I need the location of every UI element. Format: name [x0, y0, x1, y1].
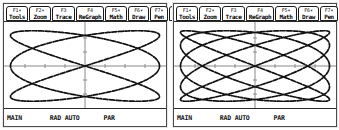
- graph-area-right[interactable]: [174, 22, 336, 108]
- chevron-down-icon: ▾: [41, 7, 44, 12]
- toolbar-button-zoom[interactable]: F2▾ Zoom: [199, 6, 221, 21]
- toolbar-label-math: Math: [110, 13, 123, 20]
- status-bar-right: MAIN RAD AUTO PAR: [174, 108, 336, 126]
- toolbar-label-draw: Draw: [132, 13, 145, 20]
- screenshot-stage: F1▾ Tools F2▾ Zoom F3 Trace F4 Re: [0, 0, 339, 130]
- chevron-down-icon: ▾: [18, 7, 21, 12]
- toolbar-button-math[interactable]: F5▾ Math: [105, 6, 127, 21]
- status-graph-mode: PAR: [104, 114, 115, 122]
- status-mode: MAIN: [177, 114, 192, 122]
- toolbar-button-tools[interactable]: F1▾ Tools: [6, 6, 28, 21]
- chevron-down-icon: ▾: [117, 7, 120, 12]
- toolbar-label-regraph: ReGraph: [79, 13, 102, 20]
- toolbar-label-zoom: Zoom: [204, 13, 217, 20]
- toolbar-label-trace: Trace: [55, 13, 71, 20]
- toolbar-label-pen: Pen: [324, 13, 334, 20]
- toolbar-left: F1▾ Tools F2▾ Zoom F3 Trace F4 Re: [4, 4, 166, 22]
- lissajous-plot-left: [4, 22, 166, 108]
- status-mode: MAIN: [7, 114, 22, 122]
- toolbar-button-zoom[interactable]: F2▾ Zoom: [29, 6, 51, 21]
- calculator-screen-right: F1▾ Tools F2▾ Zoom F3 Trace F4 Re: [173, 3, 337, 127]
- toolbar-button-trace[interactable]: F3 Trace: [222, 6, 245, 21]
- chevron-down-icon: ▾: [330, 7, 333, 12]
- status-graph-mode: PAR: [274, 114, 285, 122]
- chevron-down-icon: ▾: [160, 7, 163, 12]
- chevron-down-icon: ▾: [310, 7, 313, 12]
- graph-area-left[interactable]: [4, 22, 166, 108]
- toolbar-label-pen: Pen: [154, 13, 164, 20]
- chevron-down-icon: ▾: [188, 7, 191, 12]
- toolbar-button-pen[interactable]: F7▾ Pen: [320, 6, 338, 21]
- chevron-down-icon: ▾: [287, 7, 290, 12]
- toolbar-button-regraph[interactable]: F4 ReGraph: [76, 6, 104, 21]
- status-angle-mode: RAD AUTO: [50, 114, 80, 122]
- toolbar-button-draw[interactable]: F6▾ Draw: [298, 6, 319, 21]
- toolbar-button-pen[interactable]: F7▾ Pen: [150, 6, 168, 21]
- toolbar-button-math[interactable]: F5▾ Math: [275, 6, 297, 21]
- toolbar-label-draw: Draw: [302, 13, 315, 20]
- status-bar-left: MAIN RAD AUTO PAR: [4, 108, 166, 126]
- toolbar-label-trace: Trace: [225, 13, 241, 20]
- toolbar-button-tools[interactable]: F1▾ Tools: [176, 6, 198, 21]
- status-angle-mode: RAD AUTO: [220, 114, 250, 122]
- toolbar-label-zoom: Zoom: [34, 13, 47, 20]
- toolbar-label-tools: Tools: [179, 13, 195, 20]
- chevron-down-icon: ▾: [211, 7, 214, 12]
- lissajous-plot-right: [174, 22, 336, 108]
- toolbar-label-math: Math: [280, 13, 293, 20]
- chevron-down-icon: ▾: [140, 7, 143, 12]
- toolbar-button-trace[interactable]: F3 Trace: [52, 6, 75, 21]
- toolbar-label-tools: Tools: [9, 13, 25, 20]
- calculator-screen-left: F1▾ Tools F2▾ Zoom F3 Trace F4 Re: [3, 3, 167, 127]
- toolbar-button-draw[interactable]: F6▾ Draw: [128, 6, 149, 21]
- toolbar-button-regraph[interactable]: F4 ReGraph: [246, 6, 274, 21]
- toolbar-label-regraph: ReGraph: [249, 13, 272, 20]
- toolbar-right: F1▾ Tools F2▾ Zoom F3 Trace F4 Re: [174, 4, 336, 22]
